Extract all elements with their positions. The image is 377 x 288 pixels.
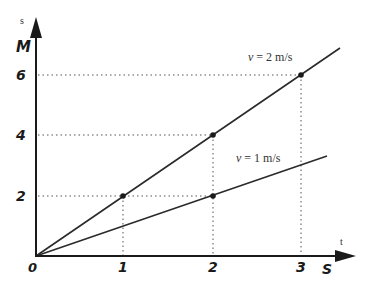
origin-label: 0 xyxy=(28,260,37,275)
y-tick-4: 4 xyxy=(15,127,26,143)
point-1-2 xyxy=(120,193,126,199)
x-axis-label: t xyxy=(340,236,343,247)
point-2-4 xyxy=(210,132,216,138)
label-v1-value: = 1 m/s xyxy=(241,151,280,165)
y-tick-6: 6 xyxy=(16,67,26,83)
y-axis-label: s xyxy=(20,15,24,26)
displacement-time-graph: s M t S 0 1 2 3 2 4 6 v = 2 m/s v = 1 m/… xyxy=(0,0,377,288)
label-v1: v = 1 m/s xyxy=(236,151,281,165)
y-tick-2: 2 xyxy=(16,188,26,204)
point-2-2 xyxy=(210,193,216,199)
point-3-6 xyxy=(298,72,304,78)
x-axis-unit: S xyxy=(322,261,332,277)
x-tick-3: 3 xyxy=(296,259,306,275)
y-axis-unit: M xyxy=(16,38,31,56)
x-axis-arrow-icon xyxy=(335,250,356,262)
line-v2 xyxy=(36,48,340,256)
label-v2: v = 2 m/s xyxy=(248,50,293,64)
x-tick-1: 1 xyxy=(118,259,128,275)
y-axis-arrow-icon xyxy=(30,17,42,38)
x-tick-2: 2 xyxy=(208,259,218,275)
label-v2-value: = 2 m/s xyxy=(253,50,292,64)
line-v1 xyxy=(36,156,327,256)
